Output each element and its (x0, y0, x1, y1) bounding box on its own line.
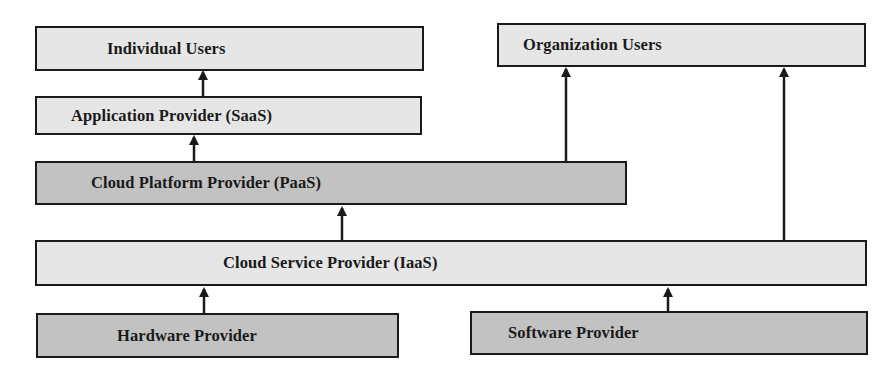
hardware-provider-box: Hardware Provider (36, 313, 399, 358)
saas-label: Application Provider (SaaS) (71, 106, 272, 126)
individual-users-label: Individual Users (107, 39, 226, 59)
iaas-label: Cloud Service Provider (IaaS) (223, 253, 437, 273)
paas-label: Cloud Platform Provider (PaaS) (91, 173, 321, 193)
organization-users-box: Organization Users (497, 23, 866, 67)
paas-box: Cloud Platform Provider (PaaS) (35, 161, 627, 205)
software-provider-box: Software Provider (470, 311, 868, 355)
hardware-provider-label: Hardware Provider (117, 326, 257, 346)
software-provider-label: Software Provider (508, 323, 639, 343)
saas-box: Application Provider (SaaS) (35, 96, 422, 135)
organization-users-label: Organization Users (523, 35, 662, 55)
iaas-box: Cloud Service Provider (IaaS) (35, 240, 867, 286)
individual-users-box: Individual Users (35, 26, 424, 71)
